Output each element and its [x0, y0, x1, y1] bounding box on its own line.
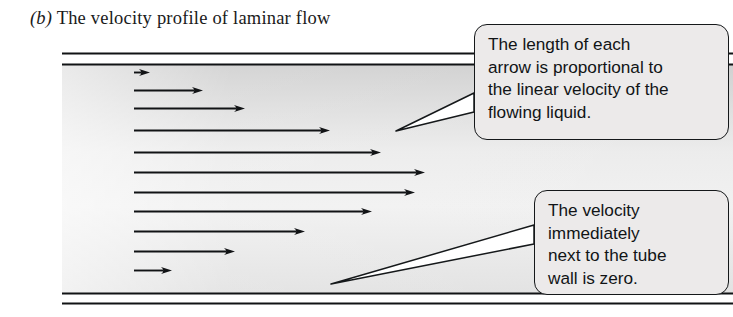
- callout-line: The velocity: [548, 199, 717, 222]
- callout-wall-velocity: The velocity immediately next to the tub…: [534, 190, 729, 295]
- callout-line: The length of each: [488, 33, 717, 56]
- callout-line: wall is zero.: [548, 267, 717, 290]
- callout-line: the linear velocity of the: [488, 78, 717, 101]
- callout-arrow-length: The length of each arrow is proportional…: [474, 24, 729, 140]
- figure-panel: (b) The velocity profile of laminar flow: [0, 0, 733, 317]
- callout-line: arrow is proportional to: [488, 56, 717, 79]
- callout-line: immediately: [548, 222, 717, 245]
- callout-line: flowing liquid.: [488, 101, 717, 124]
- callout-line: next to the tube: [548, 244, 717, 267]
